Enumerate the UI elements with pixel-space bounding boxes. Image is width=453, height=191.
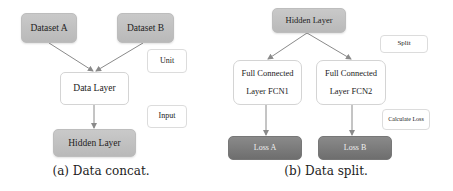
node-data-layer: Data Layer (60, 72, 129, 105)
node-dataset-a-label: Dataset A (30, 23, 67, 33)
node-fcn2: Full Connected Layer FCN2 (316, 60, 386, 105)
node-fcn1-line2: Layer FCN1 (246, 87, 289, 96)
node-dataset-b: Dataset B (117, 13, 174, 43)
node-fcn1-line1: Full Connected (241, 69, 293, 78)
node-fcn2-line2: Layer FCN2 (330, 87, 373, 96)
node-hidden-layer-a: Hidden Layer (53, 129, 136, 157)
node-fcn2-line1: Full Connected (325, 69, 377, 78)
caption-a: (a) Data concat. (52, 164, 149, 178)
legend-calculate-loss-label: Calculate Loss (388, 116, 424, 123)
legend-input-label: Input (159, 112, 176, 121)
edge-hidden-to-fcn2 (307, 33, 351, 59)
edge-hidden-to-fcn1 (268, 33, 307, 59)
edge-dataset-a-to-data-layer (49, 43, 93, 71)
legend-split-label: Split (397, 40, 410, 48)
node-loss-a: Loss A (228, 136, 302, 160)
node-hidden-layer-a-label: Hidden Layer (68, 138, 121, 148)
node-dataset-a: Dataset A (21, 13, 77, 43)
node-loss-a-label: Loss A (254, 144, 276, 153)
legend-split: Split (380, 35, 428, 53)
legend-input: Input (147, 105, 187, 128)
legend-unit: Unit (147, 49, 187, 73)
node-hidden-layer-b-label: Hidden Layer (286, 16, 333, 25)
node-fcn1: Full Connected Layer FCN1 (233, 60, 302, 105)
node-dataset-b-label: Dataset B (127, 23, 164, 33)
node-loss-b: Loss B (318, 136, 392, 160)
legend-unit-label: Unit (160, 57, 174, 66)
node-hidden-layer-b: Hidden Layer (272, 8, 346, 33)
caption-b: (b) Data split. (284, 164, 368, 178)
node-loss-b-label: Loss B (344, 144, 366, 153)
legend-calculate-loss: Calculate Loss (382, 109, 430, 130)
edge-dataset-b-to-data-layer (96, 43, 143, 71)
node-data-layer-label: Data Layer (73, 83, 115, 93)
